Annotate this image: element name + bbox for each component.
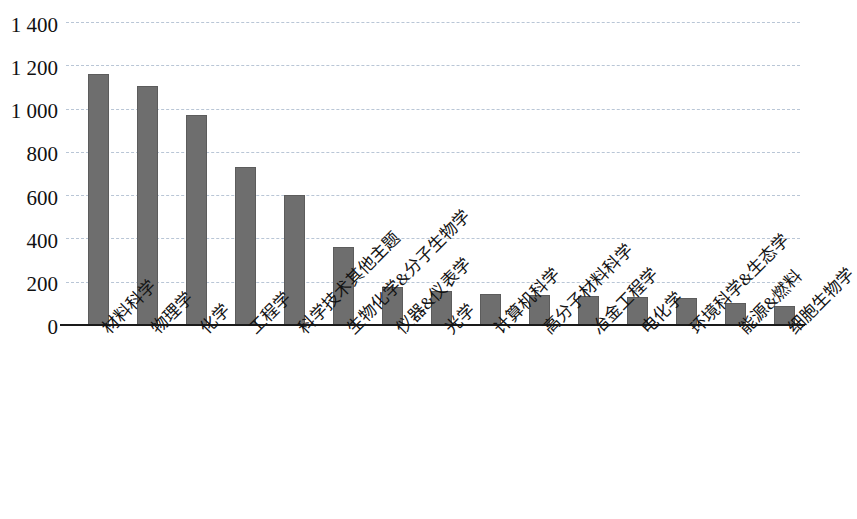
y-tick-label: 1 400	[11, 15, 58, 36]
y-tick-label: 800	[27, 144, 59, 165]
bar-0[interactable]	[88, 74, 109, 325]
y-tick-label: 600	[27, 188, 59, 209]
y-tick-label: 1 000	[11, 101, 58, 122]
x-axis-labels: 材料科学 物理学 化学 工程学 科学技术其他主题 生物化学&分子生物学 仪器&仪…	[0, 325, 814, 519]
bars-layer	[66, 22, 800, 325]
y-tick-label: 1 200	[11, 58, 58, 79]
y-tick-label: 400	[27, 231, 59, 252]
bar-3[interactable]	[235, 167, 256, 325]
y-tick-label: 200	[27, 274, 59, 295]
